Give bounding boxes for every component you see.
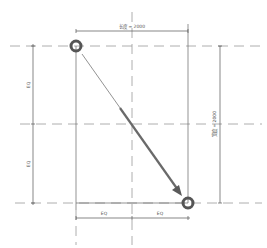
left-dimension xyxy=(31,44,35,205)
bottom-right-dimension-label: EQ xyxy=(157,211,164,216)
guide-lines xyxy=(10,12,262,245)
left-upper-dimension-label: EQ xyxy=(26,81,31,88)
arrow-head-icon xyxy=(172,185,182,196)
drawing-canvas: 长度 = 2000 宽度 = 2000 EQ EQ EQ EQ xyxy=(0,0,267,248)
right-dimension-label: 宽度 = 2000 xyxy=(211,111,218,137)
left-lower-dimension-label: EQ xyxy=(26,160,31,167)
bottom-dimension xyxy=(76,216,190,220)
right-dimension xyxy=(218,46,222,203)
bottom-left-dimension-label: EQ xyxy=(101,211,108,216)
top-dimension-label: 长度 = 2000 xyxy=(119,23,145,30)
arrow-shaft xyxy=(120,108,178,190)
